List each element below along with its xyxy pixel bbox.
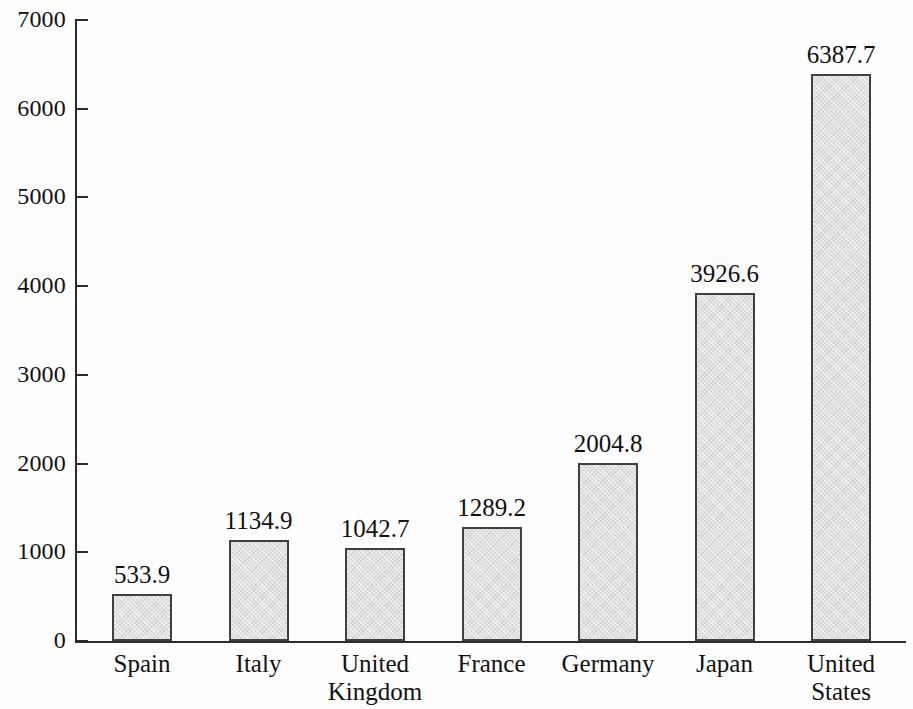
y-axis-tick-label: 5000	[0, 184, 66, 208]
y-axis-tick-label: 3000	[0, 362, 66, 386]
bar	[345, 548, 405, 641]
bar	[229, 540, 289, 641]
y-axis-tick-label-text: 4000	[4, 273, 66, 297]
bar-value-label: 533.9	[82, 562, 202, 587]
bar	[811, 74, 871, 641]
bar	[462, 527, 522, 641]
x-axis-category-label: France	[430, 650, 554, 678]
bar-value-label: 1134.9	[199, 508, 319, 533]
bar-chart: 01000200030004000500060007000 533.9Spain…	[0, 0, 913, 709]
y-axis-tick-label: 4000	[0, 273, 66, 297]
x-axis-category-label: United Kingdom	[313, 650, 437, 706]
y-axis-line	[75, 20, 77, 642]
y-axis-tick-label: 1000	[0, 539, 66, 563]
x-axis-category-label: Japan	[663, 650, 787, 678]
bar-value-label: 6387.7	[781, 42, 901, 67]
x-axis-category-label: United States	[779, 650, 903, 706]
x-axis-category-label: Germany	[546, 650, 670, 678]
bar-value-label: 1289.2	[432, 495, 552, 520]
y-axis-tick-label-text: 0	[4, 628, 66, 652]
y-axis-tick-label-text: 6000	[4, 96, 66, 120]
bar	[578, 463, 638, 641]
bar	[112, 594, 172, 641]
y-axis-tick-label: 7000	[0, 7, 66, 31]
bar	[695, 293, 755, 641]
x-axis-category-label: Spain	[80, 650, 204, 678]
bar-value-label: 2004.8	[548, 431, 668, 456]
bar-value-label: 3926.6	[665, 261, 785, 286]
y-axis-tick-label-text: 7000	[4, 7, 66, 31]
y-axis-tick-label-text: 2000	[4, 451, 66, 475]
bar-value-label: 1042.7	[315, 516, 435, 541]
y-axis-tick-label: 0	[0, 628, 66, 652]
y-axis-tick-label: 2000	[0, 451, 66, 475]
x-axis-line	[75, 641, 906, 643]
y-axis-tick-label: 6000	[0, 96, 66, 120]
y-axis-tick-label-text: 5000	[4, 184, 66, 208]
x-axis-category-label: Italy	[197, 650, 321, 678]
y-axis-tick-label-text: 3000	[4, 362, 66, 386]
y-axis-tick-label-text: 1000	[4, 539, 66, 563]
